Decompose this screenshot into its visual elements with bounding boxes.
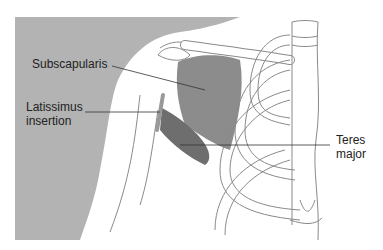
spine (290, 21, 322, 241)
shoulder-anatomy-diagram: Subscapularis Latissimus insertion Teres… (0, 0, 383, 250)
label-subscapularis: Subscapularis (32, 57, 107, 71)
label-latissimus-line1: Latissimus (26, 100, 83, 114)
label-teres-line2: major (336, 147, 366, 161)
label-latissimus-line2: insertion (26, 114, 83, 128)
label-teres-major: Teres major (336, 133, 366, 161)
label-teres-line1: Teres (336, 133, 366, 147)
label-latissimus-insertion: Latissimus insertion (26, 100, 83, 128)
humerus-outline-2 (110, 95, 140, 232)
humerus-outline-3 (140, 110, 158, 205)
